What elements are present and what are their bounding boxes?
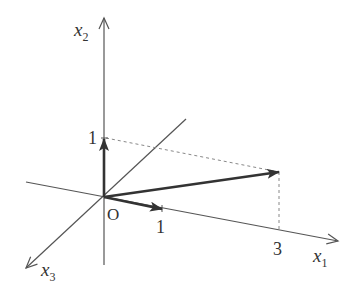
x3-axis	[26, 119, 186, 268]
coordinate-diagram: x2 x1 x3 O 1 1 3	[0, 0, 363, 298]
x1-axis	[26, 182, 338, 241]
x1-tick-label-3: 3	[273, 239, 282, 259]
vector-v	[104, 172, 279, 197]
x3-axis-label: x3	[40, 259, 55, 284]
x2-tick-label-1: 1	[88, 128, 97, 148]
dashed-guide-top	[106, 138, 279, 172]
x2-axis-label: x2	[73, 19, 88, 44]
x1-tick-label-1: 1	[156, 217, 165, 237]
x1-axis-label: x1	[312, 245, 327, 270]
origin-label: O	[107, 205, 119, 224]
